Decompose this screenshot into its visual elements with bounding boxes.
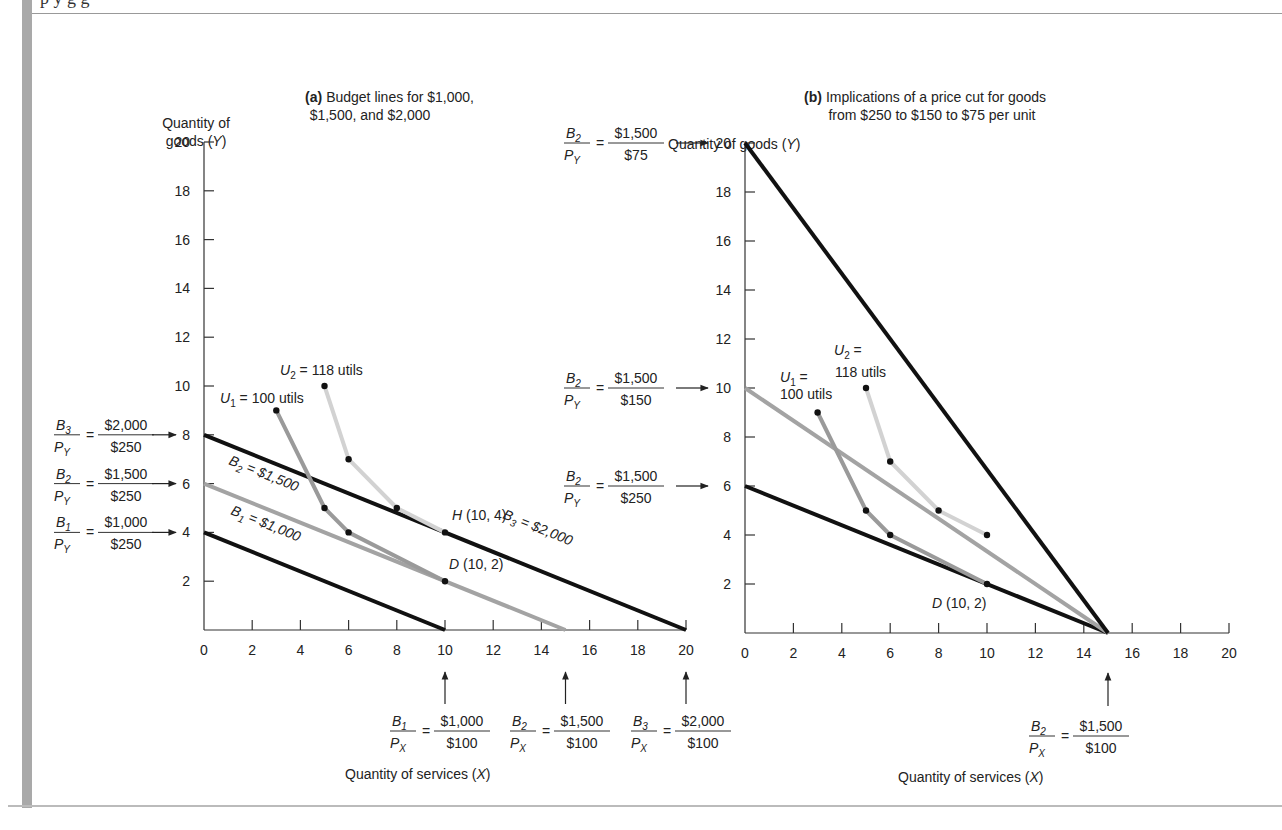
panel-a-x-intercept-annotations: B1PX=$1,000$100B2PX=$1,500$100B3PX=$2,00… [390, 672, 731, 754]
y-tick-label: 14 [174, 280, 190, 296]
fraction-denominator: PX [1029, 740, 1045, 759]
fraction-denominator: PX [390, 735, 406, 754]
fraction-value-den: $250 [620, 490, 651, 506]
x-tick-label: 0 [741, 645, 749, 661]
svg-text:=: = [86, 427, 94, 443]
x-tick-label: 6 [345, 642, 353, 658]
u2-label-b-2: 118 utils [835, 364, 886, 380]
panel-b-points [814, 385, 990, 587]
x-tick-label: 10 [979, 645, 995, 661]
fraction-numerator: B3 [56, 417, 71, 436]
data-point [442, 529, 448, 535]
fraction-value-den: $100 [446, 735, 477, 751]
y-tick-label: 4 [182, 524, 190, 540]
svg-text:=: = [596, 380, 604, 396]
svg-text:=: = [86, 524, 94, 540]
b1-line [204, 532, 445, 630]
x-tick-label: 20 [678, 642, 694, 658]
u1-label-b-2: 100 utils [780, 386, 832, 402]
x-tick-label: 14 [534, 642, 550, 658]
data-point [345, 529, 351, 535]
x-tick-label: 20 [1221, 645, 1237, 661]
fraction-value-den: $250 [110, 439, 141, 455]
x-tick-label: 6 [886, 645, 894, 661]
y-tick-label: 6 [723, 478, 731, 494]
y-tick-label: 18 [715, 184, 731, 200]
fraction-numerator: B1 [392, 713, 407, 732]
point-d-label: D (10, 2) [449, 556, 503, 572]
point-d-label-b: D (10, 2) [932, 595, 986, 611]
u2-curve [325, 386, 446, 532]
data-point [887, 458, 893, 464]
fraction-denominator: PY [564, 490, 581, 509]
fraction-numerator: B2 [1031, 718, 1046, 737]
y-tick-label: 10 [174, 378, 190, 394]
y-tick-label: 16 [174, 232, 190, 248]
x-tick-label: 12 [485, 642, 501, 658]
x-tick-label: 18 [630, 642, 646, 658]
x-tick-label: 10 [437, 642, 453, 658]
u2-label-b: U2 = [834, 342, 862, 361]
svg-text:=: = [1061, 728, 1069, 744]
fraction-numerator: B2 [512, 713, 527, 732]
panel-b-x-ticks: 02468101214161820 [741, 623, 1237, 661]
x-tick-label: 8 [935, 645, 943, 661]
x-tick-label: 2 [790, 645, 798, 661]
panel-a-y-intercept-annotations: B3PY=$2,000$250B2PY=$1,500$250B1PY=$1,00… [54, 417, 176, 556]
fraction-value-den: $150 [620, 392, 651, 408]
y-tick-label: 10 [715, 380, 731, 396]
panel-a-y-label-1: Quantity of [162, 115, 230, 131]
fraction-value-num: $1,500 [615, 125, 658, 141]
x-tick-label: 4 [297, 642, 305, 658]
fraction-value-num: $1,500 [1080, 718, 1123, 734]
data-point [345, 456, 351, 462]
budget-line-figure: (a)Budget lines for $1,000, $1,500, and … [0, 0, 1282, 830]
fraction-denominator: PY [54, 536, 71, 555]
fraction-denominator: PY [564, 392, 581, 411]
fraction-denominator: PY [54, 488, 71, 507]
y-tick-label: 8 [182, 427, 190, 443]
data-point [321, 505, 327, 511]
fraction-value-num: $1,500 [561, 713, 604, 729]
y-tick-label: 4 [723, 527, 731, 543]
svg-text:=: = [86, 476, 94, 492]
fraction-value-den: $250 [110, 536, 141, 552]
fraction-value-num: $2,000 [105, 417, 148, 433]
x-tick-label: 16 [1124, 645, 1140, 661]
panel-a: (a)Budget lines for $1,000, $1,500, and … [54, 89, 731, 782]
x-tick-label: 16 [582, 642, 598, 658]
fraction-value-den: $100 [1085, 740, 1116, 756]
svg-text:=: = [422, 723, 430, 739]
u2-label: U2 = 118 utils [280, 362, 363, 381]
y-tick-label: 14 [715, 282, 731, 298]
fraction-numerator: B2 [566, 468, 581, 487]
x-tick-label: 4 [838, 645, 846, 661]
svg-text:=: = [663, 723, 671, 739]
point-h-label: H (10, 4) [452, 507, 506, 523]
x-tick-label: 14 [1076, 645, 1092, 661]
fraction-value-num: $2,000 [682, 713, 725, 729]
fraction-value-num: $1,500 [615, 468, 658, 484]
svg-text:=: = [542, 723, 550, 739]
b2-line [204, 484, 566, 630]
data-point [321, 383, 327, 389]
x-tick-label: 18 [1173, 645, 1189, 661]
data-point [984, 532, 990, 538]
panel-b-y-label: Quantity of goods (Y) [668, 136, 800, 152]
y-tick-label: 20 [715, 135, 731, 151]
fraction-value-num: $1,000 [441, 713, 484, 729]
fraction-value-num: $1,500 [105, 466, 148, 482]
b3-label: B3 = $2,000 [500, 506, 576, 551]
data-point [814, 409, 820, 415]
panel-a-title: (a)Budget lines for $1,000, [305, 89, 474, 105]
x-tick-label: 0 [200, 642, 208, 658]
data-point [394, 505, 400, 511]
panel-b-y-ticks: 2468101214161820 [715, 135, 755, 592]
u2-curve-b [866, 388, 987, 535]
y-tick-label: 20 [174, 134, 190, 150]
data-point [863, 385, 869, 391]
x-tick-label: 8 [393, 642, 401, 658]
fraction-numerator: B2 [566, 370, 581, 389]
u1-label: U1 = 100 utils [220, 390, 304, 409]
panel-a-y-ticks: 2468101214161820 [174, 134, 214, 589]
